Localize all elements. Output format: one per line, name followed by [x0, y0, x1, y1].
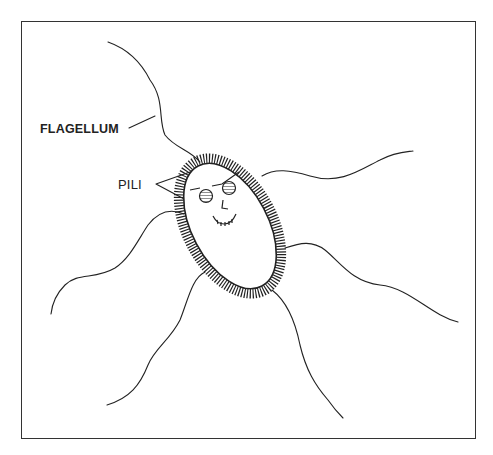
flagellum-bottom-left [107, 272, 205, 405]
right-lens [223, 182, 236, 195]
flagellum-left [51, 211, 184, 314]
flagellum-bottom-right [272, 290, 343, 418]
bacterium-illustration [0, 0, 493, 455]
left-lens [200, 190, 213, 203]
flagellum-right-top [262, 151, 413, 179]
pili-label: PILI [118, 177, 142, 192]
flagellum-leader-line [129, 116, 155, 128]
flagellum-label: FLAGELLUM [40, 122, 119, 136]
flagellum-right-bottom [285, 243, 458, 322]
flagellum-top-left [108, 42, 200, 162]
